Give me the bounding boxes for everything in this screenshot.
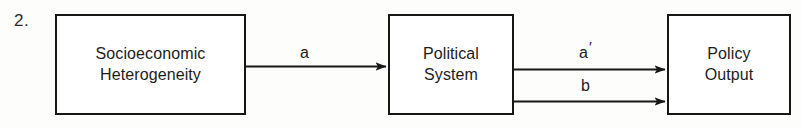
node-label-policy: Policy Output: [705, 44, 754, 85]
flow-diagram: 2. Socioeconomic Heterogeneity Political…: [0, 0, 801, 128]
item-number: 2.: [14, 12, 29, 29]
node-label-political: Political System: [423, 44, 479, 85]
node-socioeconomic-heterogeneity[interactable]: Socioeconomic Heterogeneity: [55, 14, 246, 115]
edge-label-b: b: [581, 78, 590, 94]
edge-label-a: a: [300, 45, 309, 61]
edge-label-a-text: a: [300, 44, 309, 61]
node-label-socioeconomic: Socioeconomic Heterogeneity: [96, 44, 206, 85]
edge-label-a-prime: a′: [579, 45, 592, 61]
node-political-system[interactable]: Political System: [388, 14, 514, 115]
edge-label-a-prime-text: a: [579, 44, 588, 61]
node-policy-output[interactable]: Policy Output: [667, 14, 791, 115]
edge-label-b-text: b: [581, 77, 590, 94]
prime-mark-icon: ′: [589, 38, 592, 55]
